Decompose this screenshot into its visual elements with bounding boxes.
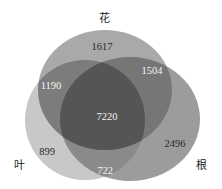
count-flower-only: 1617 xyxy=(92,41,113,52)
count-flower-root: 1504 xyxy=(142,65,164,76)
venn-diagram: 花 叶 根 1617 1190 1504 7220 2496 899 722 xyxy=(0,0,222,189)
flower-set-label: 花 xyxy=(99,12,110,25)
count-leaf-root: 722 xyxy=(97,165,113,176)
count-root-only: 2496 xyxy=(165,138,186,149)
count-leaf-only: 899 xyxy=(39,146,55,157)
leaf-set-label: 叶 xyxy=(14,159,25,172)
count-all-three: 7220 xyxy=(97,111,118,122)
count-flower-leaf: 1190 xyxy=(41,80,62,91)
root-set-label: 根 xyxy=(196,158,207,172)
